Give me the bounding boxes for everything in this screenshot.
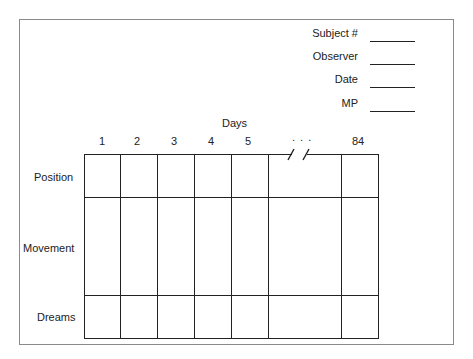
subject-label: Subject # xyxy=(268,27,358,39)
mp-field[interactable] xyxy=(370,111,415,112)
day-label-5: 5 xyxy=(245,135,251,147)
days-header: Days xyxy=(222,117,247,129)
date-field[interactable] xyxy=(370,87,415,88)
grid-top-left xyxy=(84,154,292,155)
day-label-1: 1 xyxy=(99,135,105,147)
date-label: Date xyxy=(268,73,358,85)
axis-break-icon xyxy=(284,146,314,162)
grid-col-line xyxy=(84,154,85,339)
grid-col-line xyxy=(341,154,342,339)
grid-col-line xyxy=(231,154,232,339)
row-label-position: Position xyxy=(34,171,73,183)
day-label-3: 3 xyxy=(171,135,177,147)
day-label-2: 2 xyxy=(134,135,140,147)
observer-label: Observer xyxy=(268,50,358,62)
day-label-84: 84 xyxy=(352,135,364,147)
mp-label: MP xyxy=(268,97,358,109)
row-label-dreams: Dreams xyxy=(37,311,76,323)
grid-col-line xyxy=(120,154,121,339)
grid-col-line xyxy=(194,154,195,339)
grid-col-line xyxy=(378,154,379,339)
row-label-movement: Movement xyxy=(23,242,74,254)
day-label-ellipsis: . . . xyxy=(292,131,312,143)
subject-field[interactable] xyxy=(370,41,415,42)
day-label-4: 4 xyxy=(208,135,214,147)
observer-field[interactable] xyxy=(370,64,415,65)
grid-top-right xyxy=(307,154,379,155)
grid-col-line xyxy=(268,154,269,339)
grid-col-line xyxy=(157,154,158,339)
